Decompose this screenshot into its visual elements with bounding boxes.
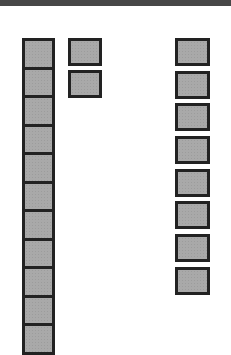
top-bar	[0, 0, 231, 6]
right-slot-column	[175, 38, 210, 300]
slot-tile[interactable]	[175, 201, 210, 229]
slot-tile[interactable]	[22, 124, 55, 156]
slot-tile[interactable]	[22, 209, 55, 241]
slot-tile[interactable]	[175, 71, 210, 99]
left-slot-column	[22, 38, 55, 355]
slot-tile[interactable]	[175, 234, 210, 262]
slot-tile[interactable]	[22, 67, 55, 99]
slot-tile[interactable]	[22, 95, 55, 127]
slot-tile[interactable]	[175, 136, 210, 164]
slot-tile[interactable]	[22, 238, 55, 270]
slot-tile[interactable]	[22, 181, 55, 213]
slot-tile[interactable]	[68, 38, 102, 66]
slot-tile[interactable]	[22, 38, 55, 70]
slot-tile[interactable]	[22, 266, 55, 298]
slot-tile[interactable]	[175, 267, 210, 295]
slot-tile[interactable]	[22, 323, 55, 355]
slot-tile[interactable]	[175, 169, 210, 197]
middle-slot-column	[68, 38, 102, 102]
slot-tile[interactable]	[68, 70, 102, 98]
slot-tile[interactable]	[22, 152, 55, 184]
slot-tile[interactable]	[22, 295, 55, 327]
slot-tile[interactable]	[175, 103, 210, 131]
slot-tile[interactable]	[175, 38, 210, 66]
